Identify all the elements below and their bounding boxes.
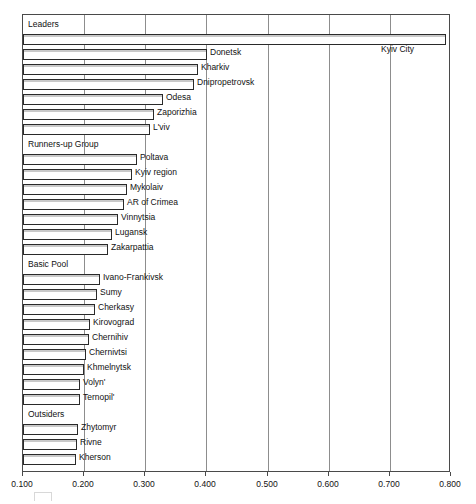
bar-label: Ternopil'	[83, 392, 114, 403]
bar	[23, 199, 124, 210]
bar-row: Rivne	[23, 439, 451, 450]
caption-marker-stub	[34, 492, 52, 501]
bar-label: Ivano-Frankivsk	[103, 272, 163, 283]
bar-row: Kyiv City	[23, 34, 451, 45]
bar	[23, 229, 112, 240]
bar	[23, 154, 137, 165]
bar-row: Mykolaiv	[23, 184, 451, 195]
bar-label: Rivne	[80, 437, 102, 448]
x-axis-tick	[205, 472, 206, 476]
bar-label: L'viv	[153, 122, 170, 133]
bar-label: Chernihiv	[92, 332, 128, 343]
bar-label: Chernivtsi	[89, 347, 127, 358]
bar	[23, 49, 207, 60]
bar-row: Dnipropetrovsk	[23, 79, 451, 90]
bar	[23, 364, 84, 375]
bar-row: Kirovograd	[23, 319, 451, 330]
bar-row: Kharkiv	[23, 64, 451, 75]
bar	[23, 79, 194, 90]
bar	[23, 214, 118, 225]
bar	[23, 349, 86, 360]
group-label: Basic Pool	[28, 259, 68, 270]
bar	[23, 274, 100, 285]
bar-label: Vinnytsia	[121, 212, 155, 223]
bar-label: Poltava	[140, 152, 168, 163]
bar-label: Zaporizhia	[157, 107, 197, 118]
bar-row: Ivano-Frankivsk	[23, 274, 451, 285]
bar	[23, 64, 198, 75]
bar-label: Kherson	[79, 452, 111, 463]
x-axis-tick-label: 0.800	[439, 479, 460, 489]
bar	[23, 304, 95, 315]
bar	[23, 454, 76, 465]
bar-label: Kirovograd	[93, 317, 134, 328]
bar-label: Sumy	[100, 287, 122, 298]
bar-label: Mykolaiv	[130, 182, 163, 193]
bar-label: Volyn'	[83, 377, 105, 388]
bar-label: Donetsk	[210, 47, 241, 58]
x-axis-tick-label: 0.400	[194, 479, 215, 489]
bar	[23, 289, 97, 300]
bar-row: Zaporizhia	[23, 109, 451, 120]
bar	[23, 169, 132, 180]
bar	[23, 244, 108, 255]
bar-label: Zhytomyr	[81, 422, 116, 433]
bar	[23, 424, 78, 435]
x-axis-tick-label: 0.700	[378, 479, 399, 489]
bar-label: Dnipropetrovsk	[197, 77, 254, 88]
bar-row: Zakarpattia	[23, 244, 451, 255]
bar-row: Chernihiv	[23, 334, 451, 345]
bar-label: Lugansk	[115, 227, 147, 238]
bar-row: Kherson	[23, 454, 451, 465]
bar-label: Cherkasy	[98, 302, 134, 313]
bar	[23, 94, 163, 105]
bar	[23, 184, 127, 195]
bar-chart: LeadersKyiv CityDonetskKharkivDnipropetr…	[0, 0, 476, 504]
x-axis-tick	[267, 472, 268, 476]
x-axis-tick	[450, 472, 451, 476]
bar	[23, 439, 77, 450]
bar-label: Kyiv region	[135, 167, 177, 178]
bar-label: AR of Crimea	[127, 197, 178, 208]
bar-row: Donetsk	[23, 49, 451, 60]
bar-row: Vinnytsia	[23, 214, 451, 225]
bar	[23, 394, 80, 405]
bar-row: L'viv	[23, 124, 451, 135]
bar-row: Cherkasy	[23, 304, 451, 315]
bar	[23, 334, 89, 345]
x-axis-tick-label: 0.100	[11, 479, 32, 489]
bar-row: Odesa	[23, 94, 451, 105]
bar-row: Zhytomyr	[23, 424, 451, 435]
bar-label: Khmelnytsk	[87, 362, 131, 373]
bar-row: Sumy	[23, 289, 451, 300]
bar-row: Volyn'	[23, 379, 451, 390]
x-axis-tick	[328, 472, 329, 476]
group-label: Outsiders	[28, 409, 64, 420]
bar	[23, 109, 154, 120]
bar-label: Zakarpattia	[111, 242, 154, 253]
bar	[23, 124, 150, 135]
x-axis-tick	[22, 472, 23, 476]
group-label: Leaders	[28, 19, 59, 30]
bar-label: Kharkiv	[201, 62, 229, 73]
bar-row: Poltava	[23, 154, 451, 165]
bar-row: Ternopil'	[23, 394, 451, 405]
bar	[23, 379, 80, 390]
bar-row: Chernivtsi	[23, 349, 451, 360]
bar-row: Kyiv region	[23, 169, 451, 180]
x-axis-tick-label: 0.300	[133, 479, 154, 489]
x-axis-tick	[144, 472, 145, 476]
bar-row: Khmelnytsk	[23, 364, 451, 375]
x-axis-tick	[389, 472, 390, 476]
bar	[23, 319, 90, 330]
x-axis-tick-label: 0.200	[72, 479, 93, 489]
x-axis-tick-label: 0.600	[317, 479, 338, 489]
gridline	[451, 15, 452, 471]
bar-row: Lugansk	[23, 229, 451, 240]
x-axis-tick	[83, 472, 84, 476]
bar-row: AR of Crimea	[23, 199, 451, 210]
x-axis-tick-label: 0.500	[256, 479, 277, 489]
plot-area: LeadersKyiv CityDonetskKharkivDnipropetr…	[22, 14, 450, 472]
bar-label: Odesa	[166, 92, 191, 103]
group-label: Runners-up Group	[28, 139, 98, 150]
